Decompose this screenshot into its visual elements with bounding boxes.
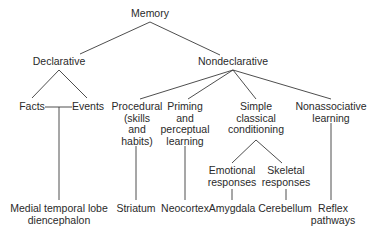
node-nondeclarative: Nondeclarative xyxy=(198,56,268,68)
label-line: Skeletal xyxy=(262,165,310,177)
label-line: Procedural xyxy=(112,101,163,113)
label-line: habits) xyxy=(112,136,163,148)
node-striatum: Striatum xyxy=(116,203,155,215)
label-line: Simple xyxy=(228,101,284,113)
node-priming: Priming and perceptual learning xyxy=(160,101,209,147)
node-events: Events xyxy=(72,101,104,113)
label-line: perceptual xyxy=(160,124,209,136)
node-procedural: Procedural (skills and habits) xyxy=(112,101,163,147)
node-classical-conditioning: Simple classical conditioning xyxy=(228,101,284,136)
node-memory: Memory xyxy=(131,8,169,20)
label-line: learning xyxy=(295,113,366,125)
node-cerebellum: Cerebellum xyxy=(258,203,312,215)
label-line: responses xyxy=(208,177,256,189)
node-reflex-pathways: Reflex pathways xyxy=(311,203,355,226)
label-line: conditioning xyxy=(228,124,284,136)
label-line: pathways xyxy=(311,215,355,227)
node-emotional-responses: Emotional responses xyxy=(208,165,256,188)
label-line: Priming xyxy=(160,101,209,113)
node-amygdala: Amygdala xyxy=(209,203,256,215)
label-line: Nonassociative xyxy=(295,101,366,113)
label-line: Reflex xyxy=(311,203,355,215)
label-line: Medial temporal lobe xyxy=(10,203,107,215)
label-line: Emotional xyxy=(208,165,256,177)
label-line: responses xyxy=(262,177,310,189)
node-medial-temporal-lobe: Medial temporal lobe diencephalon xyxy=(10,203,107,226)
node-facts: Facts xyxy=(19,101,45,113)
label-line: diencephalon xyxy=(10,215,107,227)
node-neocortex: Neocortex xyxy=(161,203,209,215)
label-line: and xyxy=(112,124,163,136)
node-declarative: Declarative xyxy=(33,56,86,68)
node-nonassociative: Nonassociative learning xyxy=(295,101,366,124)
label-line: learning xyxy=(160,136,209,148)
node-skeletal-responses: Skeletal responses xyxy=(262,165,310,188)
